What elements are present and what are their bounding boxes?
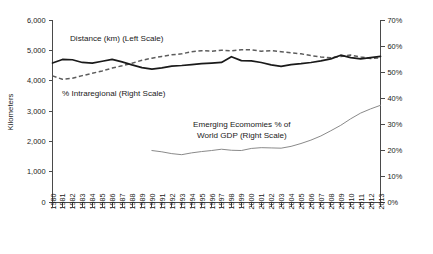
left-tick-label: 6,000 bbox=[27, 16, 46, 25]
x-tick-label: 2002 bbox=[267, 194, 276, 210]
x-tick-label: 1985 bbox=[98, 194, 107, 210]
x-tick-label: 2012 bbox=[367, 194, 376, 210]
series-line-distance bbox=[53, 55, 381, 69]
left-axis-ticks: 01,0002,0003,0004,0005,0006,000 bbox=[27, 16, 53, 207]
right-tick-label: 0% bbox=[388, 198, 399, 207]
left-tick-label: 1,000 bbox=[27, 167, 46, 176]
left-tick-label: 5,000 bbox=[27, 46, 46, 55]
right-y-axis: 0%10%20%30%40%50%60%70% bbox=[381, 16, 403, 207]
x-tick-label: 1994 bbox=[188, 194, 197, 210]
x-tick-label: 1993 bbox=[178, 194, 187, 210]
right-tick-label: 30% bbox=[388, 120, 403, 129]
left-tick-label: 4,000 bbox=[27, 76, 46, 85]
right-tick-label: 70% bbox=[388, 16, 403, 25]
x-tick-label: 2009 bbox=[337, 194, 346, 210]
left-tick-label: 0 bbox=[41, 198, 45, 207]
x-tick-label: 2007 bbox=[317, 194, 326, 210]
x-tick-label: 1996 bbox=[208, 194, 217, 210]
x-tick-label: 1987 bbox=[118, 194, 127, 210]
x-tick-label: 1995 bbox=[198, 194, 207, 210]
right-tick-label: 10% bbox=[388, 172, 403, 181]
x-tick-label: 1984 bbox=[88, 194, 97, 210]
x-axis-tick-labels: 1980198119821983198419851986198719881989… bbox=[49, 194, 386, 210]
x-tick-label: 2004 bbox=[287, 194, 296, 210]
x-tick-label: 2003 bbox=[277, 194, 286, 210]
x-tick-label: 2000 bbox=[247, 194, 256, 210]
x-tick-label: 1998 bbox=[227, 194, 236, 210]
left-y-axis: 01,0002,0003,0004,0005,0006,000 Kilomete… bbox=[6, 16, 53, 207]
series-line-intraregional bbox=[53, 50, 381, 80]
y-axis-title: Kilometers bbox=[6, 93, 15, 130]
x-tick-label: 1982 bbox=[68, 194, 77, 210]
right-tick-label: 50% bbox=[388, 68, 403, 77]
x-tick-label: 1992 bbox=[168, 194, 177, 210]
x-tick-label: 1997 bbox=[217, 194, 226, 210]
chart-annotations: Distance (km) (Left Scale)% Intraregiona… bbox=[62, 34, 291, 140]
x-tick-label: 1986 bbox=[108, 194, 117, 210]
x-tick-label: 1989 bbox=[138, 194, 147, 210]
x-tick-label: 2011 bbox=[357, 194, 366, 209]
x-axis: 1980198119821983198419851986198719881989… bbox=[49, 194, 386, 210]
chart-container: 01,0002,0003,0004,0005,0006,000 Kilomete… bbox=[0, 0, 433, 254]
emerging-label-2: World GDP (Right Scale) bbox=[197, 131, 287, 140]
x-tick-label: 2008 bbox=[327, 194, 336, 210]
left-tick-label: 3,000 bbox=[27, 107, 46, 116]
intraregional-label: % Intraregional (Right Scale) bbox=[62, 89, 166, 98]
x-tick-label: 2001 bbox=[257, 194, 266, 210]
x-tick-label: 2006 bbox=[307, 194, 316, 210]
x-tick-label: 1990 bbox=[148, 194, 157, 210]
x-tick-label: 1983 bbox=[78, 194, 87, 210]
right-tick-label: 20% bbox=[388, 146, 403, 155]
distance-label: Distance (km) (Left Scale) bbox=[70, 34, 164, 43]
x-tick-label: 1988 bbox=[128, 194, 137, 210]
x-tick-label: 1991 bbox=[158, 194, 167, 210]
x-tick-label: 2013 bbox=[377, 194, 386, 210]
x-tick-label: 2010 bbox=[347, 194, 356, 210]
right-tick-label: 60% bbox=[388, 42, 403, 51]
x-tick-label: 1980 bbox=[49, 194, 58, 210]
right-axis-ticks: 0%10%20%30%40%50%60%70% bbox=[381, 16, 403, 207]
right-tick-label: 40% bbox=[388, 94, 403, 103]
series-line-emerging-economies bbox=[152, 105, 381, 154]
x-tick-label: 1981 bbox=[58, 194, 67, 210]
x-tick-label: 1999 bbox=[237, 194, 246, 210]
left-tick-label: 2,000 bbox=[27, 137, 46, 146]
x-tick-label: 2005 bbox=[297, 194, 306, 210]
dual-axis-line-chart: 01,0002,0003,0004,0005,0006,000 Kilomete… bbox=[0, 0, 433, 254]
emerging-label-1: Emerging Ecomomies % of bbox=[193, 120, 291, 129]
